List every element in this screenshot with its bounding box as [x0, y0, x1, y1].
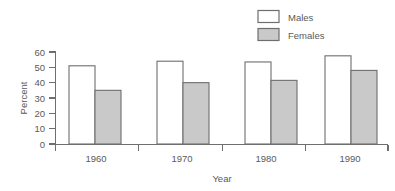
bar-groups — [69, 56, 377, 144]
chart-legend: Males Females — [258, 11, 325, 41]
y-axis: 60 50 40 30 20 10 0 Percent — [18, 47, 56, 150]
bar-group-1970 — [157, 61, 209, 144]
y-axis-title: Percent — [18, 81, 29, 114]
bar-males-1970 — [157, 61, 183, 144]
bar-males-1960 — [69, 66, 95, 144]
chart-canvas: Males Females 60 50 40 30 20 10 0 Percen… — [0, 0, 395, 191]
bar-chart: Males Females 60 50 40 30 20 10 0 Percen… — [0, 0, 395, 191]
x-axis-title: Year — [212, 173, 231, 184]
bar-group-1980 — [245, 62, 297, 144]
bar-females-1970 — [183, 83, 209, 144]
legend-label-females: Females — [288, 30, 325, 41]
x-axis: 1960 1970 1980 1990 Year — [56, 145, 389, 185]
x-tick-label-1970: 1970 — [171, 153, 192, 164]
bar-females-1960 — [95, 90, 121, 144]
x-tick-label-1990: 1990 — [339, 153, 360, 164]
x-tick-label-1980: 1980 — [255, 153, 276, 164]
y-tick-label-50: 50 — [34, 62, 45, 73]
y-tick-label-20: 20 — [34, 108, 45, 119]
y-tick-label-60: 60 — [34, 47, 45, 58]
legend-swatch-females — [258, 29, 279, 41]
bar-males-1980 — [245, 62, 271, 144]
legend-label-males: Males — [288, 12, 314, 23]
bar-males-1990 — [325, 56, 351, 144]
bar-group-1990 — [325, 56, 377, 144]
y-tick-label-10: 10 — [34, 123, 45, 134]
legend-swatch-males — [258, 11, 279, 23]
y-tick-label-0: 0 — [40, 139, 45, 150]
y-tick-label-40: 40 — [34, 77, 45, 88]
bar-females-1980 — [271, 80, 297, 144]
bar-group-1960 — [69, 66, 121, 144]
y-tick-label-30: 30 — [34, 93, 45, 104]
bar-females-1990 — [351, 70, 377, 144]
x-tick-label-1960: 1960 — [85, 153, 106, 164]
